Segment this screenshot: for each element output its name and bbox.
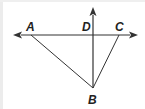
geometry-figure: A D C B <box>0 0 145 109</box>
point-label-d: D <box>82 20 91 34</box>
point-label-a: A <box>25 20 35 34</box>
arrowhead-left-icon <box>13 32 22 39</box>
point-label-b: B <box>88 93 97 107</box>
segment-AB <box>31 35 93 88</box>
diagram-canvas: A D C B <box>0 0 145 109</box>
point-label-c: C <box>115 20 124 34</box>
arrowhead-right-icon <box>129 32 138 39</box>
arrowhead-up-icon <box>90 7 97 16</box>
segment-CB <box>93 35 119 88</box>
